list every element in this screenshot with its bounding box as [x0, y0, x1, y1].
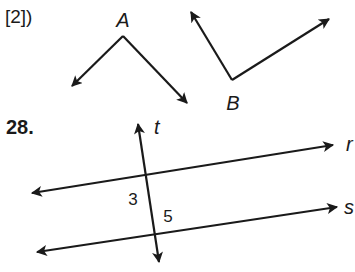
problem-number: 28.: [6, 116, 34, 138]
angle-a-ray-left: [72, 36, 123, 86]
figure-canvas: [2]) 28. A B r s t 3 5: [0, 0, 355, 272]
line-s: [37, 207, 337, 252]
angle-b-label: B: [226, 92, 239, 114]
angle-b-ray-left: [191, 12, 232, 80]
problem-prefix: [2]): [5, 6, 32, 27]
angle-5-label: 5: [163, 207, 172, 226]
parallel-lines-figure: r s t 3 5: [32, 116, 354, 262]
line-t-label: t: [154, 116, 161, 138]
angle-3-label: 3: [128, 190, 137, 209]
geometry-figure: [2]) 28. A B r s t 3 5: [0, 0, 355, 272]
line-r-label: r: [346, 133, 354, 155]
angle-a-label: A: [115, 9, 129, 31]
line-r: [32, 145, 333, 193]
angle-a-ray-right: [123, 36, 187, 103]
angle-a: A: [72, 9, 187, 103]
line-s-label: s: [344, 196, 354, 218]
angle-b: B: [191, 12, 329, 114]
angle-b-ray-right: [232, 19, 329, 80]
line-t-transversal: [138, 124, 159, 262]
